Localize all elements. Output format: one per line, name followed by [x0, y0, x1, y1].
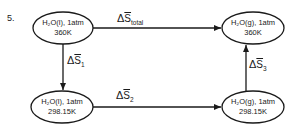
node-top-right-temp: 360K [222, 28, 284, 38]
label-delta-s3: ΔS3 [249, 60, 267, 73]
node-top-right: H₂O(g), 1atm 360K [222, 18, 284, 38]
node-bottom-right-state: H₂O(g), 1atm [222, 97, 284, 107]
node-top-left-temp: 360K [33, 28, 93, 38]
node-bottom-left-state: H₂O(l), 1atm [31, 97, 93, 107]
node-bottom-right-temp: 298.15K [222, 107, 284, 117]
label-delta-s2: ΔS2 [116, 91, 134, 104]
node-top-left-state: H₂O(l), 1atm [33, 18, 93, 28]
node-top-left: H₂O(l), 1atm 360K [33, 18, 93, 38]
node-top-right-state: H₂O(g), 1atm [222, 18, 284, 28]
node-bottom-left-temp: 298.15K [31, 107, 93, 117]
node-bottom-left: H₂O(l), 1atm 298.15K [31, 97, 93, 117]
label-delta-s-total: ΔStotal [117, 14, 143, 27]
label-delta-s1: ΔS1 [67, 56, 85, 69]
problem-number: 5. [7, 13, 15, 23]
node-bottom-right: H₂O(g), 1atm 298.15K [222, 97, 284, 117]
